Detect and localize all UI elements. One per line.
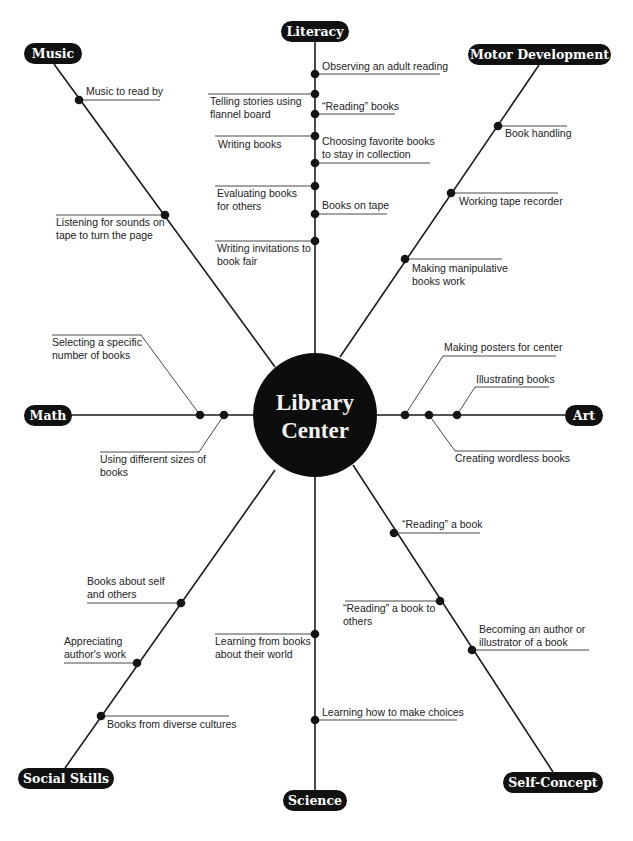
- activity-dot: [196, 411, 205, 420]
- activity-label: Making manipulative: [412, 262, 508, 274]
- center-node: Library Center: [253, 353, 377, 477]
- activity-dot: [311, 70, 320, 79]
- activity-dot: [220, 411, 229, 420]
- activity-label: Learning how to make choices: [322, 706, 464, 718]
- activity-dot: [468, 646, 477, 655]
- activity-label: Book handling: [505, 127, 572, 139]
- activity-dot: [311, 90, 320, 99]
- activity-label: books: [100, 466, 128, 478]
- activity-dot: [401, 255, 410, 264]
- activity-label: about their world: [215, 648, 293, 660]
- activity-label: Working tape recorder: [459, 195, 563, 207]
- category-pill-music: Music: [24, 43, 82, 64]
- category-pill-self-concept: Self-Concept: [503, 772, 603, 793]
- category-pill-literacy: Literacy: [281, 21, 349, 42]
- activity-dot: [133, 659, 142, 668]
- activity-label: Writing books: [218, 138, 281, 150]
- activity-label: and others: [87, 588, 137, 600]
- activity-dot: [75, 96, 84, 105]
- activity-label: number of books: [52, 349, 130, 361]
- category-label: Art: [572, 408, 595, 423]
- category-pill-motor-development: Motor Development: [468, 44, 611, 65]
- activity-dot: [401, 411, 410, 420]
- category-label: Motor Development: [470, 47, 609, 62]
- activity-label: author's work: [64, 648, 127, 660]
- category-label: Science: [288, 793, 342, 808]
- leader-line: [429, 415, 562, 451]
- category-label: Social Skills: [23, 771, 109, 786]
- category-label: Literacy: [287, 24, 345, 39]
- center-label-line1: Library: [276, 390, 354, 415]
- category-pill-math: Math: [24, 405, 72, 426]
- activity-dot: [494, 122, 503, 131]
- category-pill-art: Art: [565, 405, 603, 426]
- activity-label: Telling stories using: [210, 95, 302, 107]
- category-label: Music: [32, 46, 75, 61]
- activity-label: Using different sizes of: [100, 453, 206, 465]
- activity-dot: [390, 529, 399, 538]
- activity-dot: [311, 716, 320, 725]
- activity-label: Creating wordless books: [455, 452, 570, 464]
- activity-label: Observing an adult reading: [322, 60, 448, 72]
- activity-dot: [311, 210, 320, 219]
- leader-line: [457, 387, 549, 415]
- activity-label: Listening for sounds on: [56, 216, 165, 228]
- activity-label: Books from diverse cultures: [107, 718, 237, 730]
- activity-label: Learning from books: [215, 635, 311, 647]
- activity-dot: [311, 159, 320, 168]
- activity-label: Evaluating books: [217, 187, 297, 199]
- category-label: Math: [30, 408, 67, 423]
- center-circle: [253, 353, 377, 477]
- activity-dot: [425, 411, 434, 420]
- activity-label: “Reading” a book: [402, 518, 483, 530]
- activity-dot: [436, 597, 445, 606]
- spoke-self-concept: [353, 465, 553, 772]
- activity-dot: [311, 237, 320, 246]
- leader-line: [405, 356, 556, 415]
- activity-dot: [97, 712, 106, 721]
- activity-label: Illustrating books: [476, 373, 555, 385]
- activity-label: Books about self: [87, 575, 165, 587]
- category-label: Self-Concept: [508, 775, 598, 790]
- activity-dot: [447, 189, 456, 198]
- activity-label: tape to turn the page: [56, 229, 153, 241]
- activity-label: Music to read by: [86, 85, 164, 97]
- activity-label: Books on tape: [322, 199, 389, 211]
- category-pill-social-skills: Social Skills: [18, 768, 114, 789]
- activity-label: “Reading” books: [322, 100, 399, 112]
- activity-label: flannel board: [210, 108, 271, 120]
- activity-label: Choosing favorite books: [322, 135, 435, 147]
- activity-dot: [311, 182, 320, 191]
- activity-dot: [311, 110, 320, 119]
- activity-label: book fair: [217, 255, 258, 267]
- activity-label: Selecting a specific: [52, 336, 142, 348]
- activity-dot: [311, 630, 320, 639]
- activity-dot: [311, 132, 320, 141]
- activity-label: Writing invitations to: [217, 242, 311, 254]
- activity-label: Becoming an author or: [479, 623, 586, 635]
- activity-label: illustrator of a book: [479, 636, 568, 648]
- activity-label: “Reading” a book to: [343, 602, 435, 614]
- library-center-web-diagram: Library Center Observing an adult readin…: [0, 0, 633, 841]
- activity-label: to stay in collection: [322, 148, 411, 160]
- activity-label: Making posters for center: [444, 341, 563, 353]
- activity-label: others: [343, 615, 372, 627]
- activity-label: Appreciating: [64, 635, 123, 647]
- activity-label: for others: [217, 200, 261, 212]
- activity-label: books work: [412, 275, 466, 287]
- activity-dot: [177, 599, 186, 608]
- leader-line: [100, 415, 224, 452]
- category-pill-science: Science: [283, 790, 347, 811]
- center-label-line2: Center: [281, 418, 349, 443]
- activity-dot: [453, 411, 462, 420]
